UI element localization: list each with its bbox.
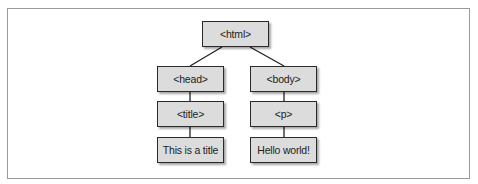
node-title-text: This is a title	[157, 137, 224, 163]
node-p: <p>	[250, 101, 317, 127]
node-head: <head>	[157, 66, 224, 92]
node-html: <html>	[202, 21, 269, 47]
node-body: <body>	[250, 66, 317, 92]
node-p-text: Hello world!	[250, 137, 317, 163]
node-title: <title>	[157, 101, 224, 127]
